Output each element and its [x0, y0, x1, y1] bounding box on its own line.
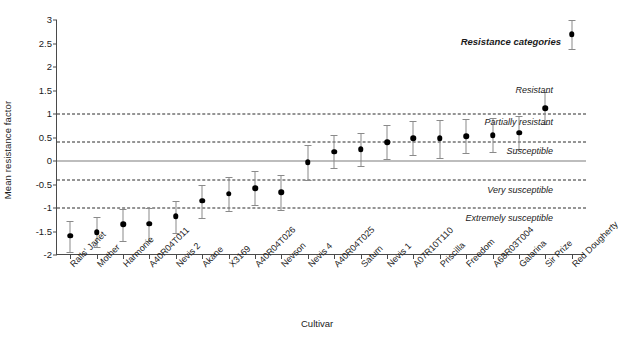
- data-marker: [358, 147, 364, 153]
- error-bar-cap: [225, 177, 232, 178]
- error-bar-cap: [568, 20, 575, 21]
- reference-line: [57, 114, 586, 115]
- data-marker: [437, 136, 443, 142]
- data-point: [249, 20, 261, 255]
- y-tick-label: -1: [22, 203, 52, 213]
- data-marker: [173, 214, 179, 220]
- data-marker: [384, 139, 390, 145]
- data-marker: [331, 149, 337, 155]
- data-point: [117, 20, 129, 255]
- reference-line: [57, 179, 586, 180]
- y-tick-mark: [53, 137, 57, 138]
- error-bar-cap: [331, 135, 338, 136]
- error-bar-cap: [67, 252, 74, 253]
- y-tick-label: 2.5: [22, 39, 52, 49]
- error-bar-cap: [304, 180, 311, 181]
- data-marker: [226, 191, 232, 197]
- y-tick-mark: [53, 20, 57, 21]
- y-tick-mark: [53, 67, 57, 68]
- y-tick-mark: [53, 231, 57, 232]
- data-marker: [252, 186, 258, 192]
- error-bar-cap: [410, 121, 417, 122]
- y-tick-label: -0.5: [22, 180, 52, 190]
- data-point: [91, 20, 103, 255]
- error-bar-cap: [568, 49, 575, 50]
- data-point: [381, 20, 393, 255]
- error-bar-cap: [278, 175, 285, 176]
- y-tick-mark: [53, 161, 57, 162]
- error-bar-cap: [199, 218, 206, 219]
- error-bar-cap: [384, 159, 391, 160]
- resistance-category-label: Resistant: [515, 85, 553, 95]
- data-marker: [199, 198, 205, 204]
- data-point: [328, 20, 340, 255]
- resistance-category-label: Resistance categories: [461, 36, 561, 47]
- error-bar-cap: [436, 158, 443, 159]
- error-bar-cap: [436, 120, 443, 121]
- data-marker: [305, 160, 311, 166]
- data-point: [170, 20, 182, 255]
- y-tick-mark: [53, 114, 57, 115]
- error-bar-cap: [120, 209, 127, 210]
- error-bar-cap: [410, 155, 417, 156]
- error-bar-cap: [463, 119, 470, 120]
- error-bar-cap: [67, 221, 74, 222]
- error-bar-cap: [252, 171, 259, 172]
- reference-line: [57, 208, 586, 209]
- y-tick-label: 3: [22, 15, 52, 25]
- y-tick-label: 0.5: [22, 133, 52, 143]
- data-marker: [543, 106, 549, 112]
- error-bar-cap: [357, 133, 364, 134]
- data-marker: [147, 221, 153, 227]
- data-point: [407, 20, 419, 255]
- error-bar-cap: [146, 208, 153, 209]
- y-tick-label: 0: [22, 156, 52, 166]
- data-point: [566, 20, 578, 255]
- data-marker: [67, 233, 73, 239]
- y-tick-label: -1.5: [22, 227, 52, 237]
- y-tick-label: 1: [22, 109, 52, 119]
- reference-line: [57, 142, 586, 143]
- data-point: [223, 20, 235, 255]
- y-tick-mark: [53, 255, 57, 256]
- resistance-category-label: Susceptible: [506, 146, 553, 156]
- x-axis-title: Cultivar: [301, 318, 333, 329]
- y-axis-title: Mean resistance factor: [2, 0, 13, 70]
- resistance-category-label: Very susceptible: [487, 185, 553, 195]
- y-tick-label: 2: [22, 62, 52, 72]
- y-tick-mark: [53, 90, 57, 91]
- data-marker: [463, 133, 469, 139]
- error-bar-cap: [252, 205, 259, 206]
- error-bar-cap: [357, 166, 364, 167]
- error-bar-cap: [463, 153, 470, 154]
- y-tick-mark: [53, 208, 57, 209]
- data-point: [302, 20, 314, 255]
- error-bar-cap: [489, 152, 496, 153]
- data-point: [434, 20, 446, 255]
- plot-area: 32.521.510.50-0.5-1-1.5-2 Resistance cat…: [57, 20, 585, 255]
- data-marker: [411, 136, 417, 142]
- error-bar-cap: [384, 125, 391, 126]
- data-point: [143, 20, 155, 255]
- data-marker: [490, 132, 496, 138]
- data-point: [64, 20, 76, 255]
- data-marker: [279, 189, 285, 195]
- y-tick-label: -2: [22, 250, 52, 260]
- data-point: [275, 20, 287, 255]
- reference-line: [57, 161, 586, 162]
- data-marker: [569, 31, 575, 37]
- error-bar-cap: [120, 241, 127, 242]
- data-point: [196, 20, 208, 255]
- error-bar-cap: [225, 211, 232, 212]
- y-tick-mark: [53, 184, 57, 185]
- data-marker: [120, 222, 126, 228]
- error-bar-cap: [278, 210, 285, 211]
- resistance-category-label: Partially resistant: [484, 117, 553, 127]
- error-bar-cap: [199, 185, 206, 186]
- data-point: [355, 20, 367, 255]
- resistance-category-label: Extremely susceptible: [465, 213, 553, 223]
- y-tick-label: 1.5: [22, 86, 52, 96]
- error-bar-cap: [172, 201, 179, 202]
- data-marker: [516, 130, 522, 136]
